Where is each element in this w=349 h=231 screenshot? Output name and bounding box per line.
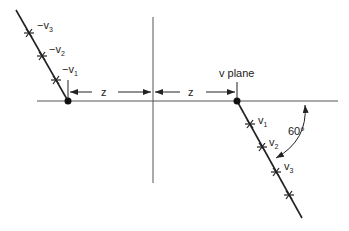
negative-v-markers xyxy=(24,29,61,84)
label-neg-v1: −v1 xyxy=(62,63,78,77)
label-neg-v3: −v3 xyxy=(37,19,53,33)
label-v1: v1 xyxy=(258,114,268,128)
positive-v-line xyxy=(237,101,302,218)
right-origin-dot xyxy=(234,98,241,105)
label-neg-v2: −v2 xyxy=(49,43,65,57)
dimension-label-left: z xyxy=(101,86,107,98)
label-v3: v3 xyxy=(284,160,294,174)
angle-label: 60° xyxy=(288,125,305,137)
left-origin-dot xyxy=(65,98,72,105)
dimension-label-right: z xyxy=(188,86,194,98)
zero-pole-diagram: z z v plane −v3 −v2 −v1 v1 v2 v3 60° xyxy=(0,0,349,231)
plane-label: v plane xyxy=(219,67,254,79)
label-v2: v2 xyxy=(269,136,279,150)
